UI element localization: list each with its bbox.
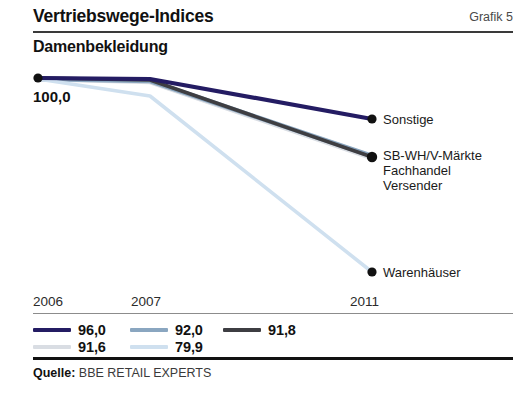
data-point-cluster-end xyxy=(367,152,377,162)
legend-swatch-versender xyxy=(33,345,71,349)
legend-item-fachhandel: 91,8 xyxy=(223,321,296,338)
x-tick-2006: 2006 xyxy=(33,294,63,309)
legend-row-2: 91,6 79,9 xyxy=(33,338,333,355)
x-tick-2007: 2007 xyxy=(131,294,161,309)
legend-row-1: 96,0 92,0 91,8 xyxy=(33,321,333,338)
series-label-versender: Versender xyxy=(383,178,482,193)
legend-value-fachhandel: 91,8 xyxy=(268,322,296,338)
axis-line xyxy=(33,313,513,314)
legend-swatch-sonstige xyxy=(33,328,71,332)
legend-swatch-warenhaeuser xyxy=(130,345,168,349)
legend: 96,0 92,0 91,8 91,6 79,9 xyxy=(33,321,333,355)
legend-value-sb-wh-v-maerkte: 92,0 xyxy=(175,322,203,338)
legend-value-warenhaeuser: 79,9 xyxy=(175,339,203,355)
legend-value-versender: 91,6 xyxy=(78,339,106,355)
source-text: BBE RETAIL EXPERTS xyxy=(79,366,211,380)
legend-swatch-fachhandel xyxy=(223,328,261,332)
series-label-sonstige: Sonstige xyxy=(383,112,434,127)
source-label: Quelle: xyxy=(33,366,75,380)
data-point-warenhaeuser-end xyxy=(367,267,376,276)
legend-item-sb-wh-v-maerkte: 92,0 xyxy=(130,321,203,338)
base-value-label: 100,0 xyxy=(33,88,71,105)
footer-divider xyxy=(33,357,513,360)
x-tick-2011: 2011 xyxy=(350,294,379,309)
legend-item-warenhaeuser: 79,9 xyxy=(130,338,203,355)
chart-page: Vertriebswege-Indices Grafik 5 Damenbekl… xyxy=(0,0,527,397)
legend-item-versender: 91,6 xyxy=(33,338,106,355)
source-note: Quelle: BBE RETAIL EXPERTS xyxy=(33,366,211,380)
legend-value-sonstige: 96,0 xyxy=(78,322,106,338)
series-label-cluster: SB-WH/V-Märkte Fachhandel Versender xyxy=(383,148,482,193)
series-label-warenhaeuser: Warenhäuser xyxy=(383,265,461,280)
data-point-start xyxy=(33,73,42,82)
series-label-fachhandel: Fachhandel xyxy=(383,163,482,178)
legend-swatch-sb-wh-v-maerkte xyxy=(130,328,168,332)
legend-item-sonstige: 96,0 xyxy=(33,321,106,338)
data-point-sonstige-end xyxy=(367,114,376,123)
series-label-sb-wh-v-maerkte: SB-WH/V-Märkte xyxy=(383,148,482,163)
